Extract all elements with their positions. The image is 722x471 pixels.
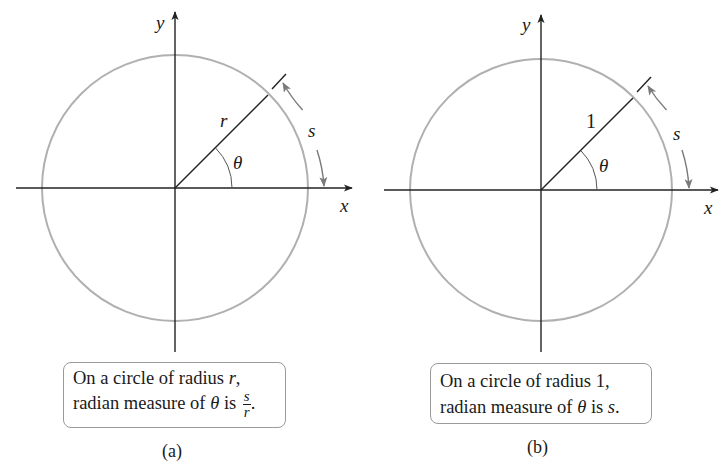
- caption-line-1: On a circle of radius 1,: [440, 370, 642, 392]
- caption-text: radian measure of: [440, 397, 577, 417]
- caption-punct: .: [615, 397, 620, 417]
- radius-variable: r: [229, 368, 236, 388]
- panel-a-sublabel: (a): [162, 441, 182, 462]
- arc-length-label: s: [308, 120, 315, 141]
- radius-extension-tick: [637, 77, 651, 92]
- caption-line-1: On a circle of radius r,: [73, 367, 276, 389]
- angle-label: θ: [599, 155, 608, 176]
- angle-arc: [215, 148, 232, 188]
- radius-extension-tick: [272, 74, 286, 89]
- fraction-numerator: s: [243, 389, 251, 405]
- arc-variable: s: [608, 397, 615, 417]
- caption-punct: ,: [236, 368, 241, 388]
- radius-label: r: [220, 110, 228, 131]
- caption-text: is: [586, 397, 608, 417]
- radius-line: [175, 95, 268, 188]
- radius-label: 1: [586, 110, 596, 132]
- y-axis-label: y: [154, 12, 165, 33]
- theta-variable: θ: [210, 393, 219, 413]
- angle-label: θ: [233, 152, 242, 173]
- caption-box-a: On a circle of radius r, radian measure …: [63, 362, 286, 428]
- caption-box-b: On a circle of radius 1, radian measure …: [430, 363, 652, 424]
- fraction-s-over-r: sr: [243, 389, 251, 420]
- panel-a: y x r θ s: [16, 12, 352, 352]
- arc-length-label: s: [673, 123, 680, 144]
- angle-arc: [581, 150, 597, 190]
- panel-b-sublabel: (b): [527, 437, 548, 458]
- caption-punct: .: [251, 393, 256, 413]
- arc-length-arrow-lower: [317, 150, 324, 186]
- x-axis-label: x: [339, 195, 349, 216]
- caption-line-2: radian measure of θ is s.: [440, 396, 642, 418]
- y-axis-label: y: [520, 14, 531, 35]
- arc-length-arrow-upper: [648, 86, 667, 110]
- caption-text: radian measure of: [73, 393, 210, 413]
- caption-line-2: radian measure of θ is sr.: [73, 389, 276, 420]
- caption-text: is: [219, 393, 241, 413]
- fraction-denominator: r: [243, 405, 251, 420]
- caption-text: On a circle of radius: [73, 368, 229, 388]
- arc-length-arrow-upper: [283, 83, 303, 110]
- arc-length-arrow-lower: [682, 150, 689, 188]
- caption-text: On a circle of radius 1,: [440, 371, 610, 391]
- panel-b: y x 1 θ s: [384, 14, 718, 352]
- x-axis-label: x: [703, 197, 713, 218]
- theta-variable: θ: [577, 397, 586, 417]
